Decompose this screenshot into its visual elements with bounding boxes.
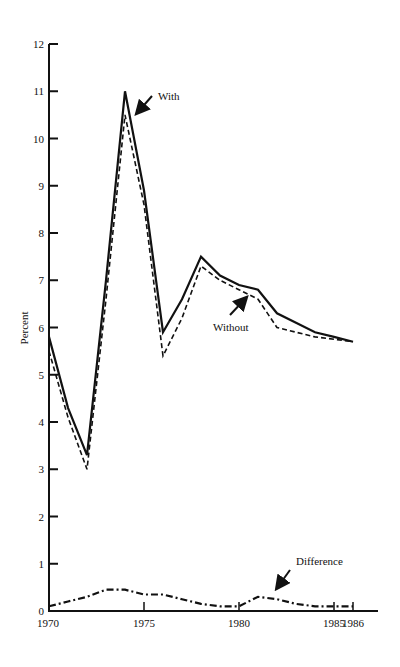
y-tick-label: 3 [39, 463, 45, 475]
y-tick-label: 12 [33, 38, 44, 50]
series-group [49, 91, 353, 606]
y-tick-label: 5 [39, 369, 45, 381]
y-tick-label: 10 [33, 133, 45, 145]
y-tick-label: 4 [39, 416, 45, 428]
annotation-without: Without [213, 321, 249, 333]
x-tick-label: 1970 [37, 617, 60, 629]
y-tick-label: 0 [39, 605, 45, 617]
annotation-difference: Difference [296, 555, 343, 567]
annotation-arrow-icon [137, 96, 152, 113]
y-tick-label: 7 [39, 274, 45, 286]
y-tick-label: 8 [39, 227, 45, 239]
x-tick-label: 1980 [228, 617, 251, 629]
annotation-arrow-icon [230, 298, 246, 315]
y-tick-label: 6 [39, 322, 45, 334]
series-difference [49, 590, 353, 607]
y-tick-label: 1 [39, 558, 45, 570]
y-tick-label: 11 [33, 85, 44, 97]
line-chart: 0123456789101112 19701975198019851986 Pe… [0, 0, 400, 667]
annotation-with: With [158, 90, 180, 102]
x-tick-label: 1986 [342, 617, 365, 629]
y-tick-label: 9 [39, 180, 45, 192]
series-without [49, 115, 353, 469]
y-tick-label: 2 [39, 511, 45, 523]
y-axis: 0123456789101112 [33, 38, 58, 617]
annotations-group: WithWithoutDifference [137, 90, 343, 588]
annotation-arrow-icon [277, 570, 290, 588]
y-axis-title: Percent [18, 312, 30, 345]
x-tick-label: 1975 [133, 617, 156, 629]
